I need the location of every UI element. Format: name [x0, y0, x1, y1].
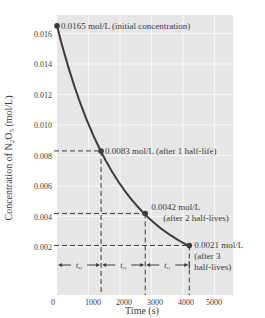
y-tick-label: 0.006: [34, 182, 52, 191]
y-axis-label: Concentration of N2O5 (mol/L): [3, 95, 16, 220]
x-tick-label: 0: [51, 298, 55, 307]
annotation-label: 0.0021 mol/L: [194, 240, 243, 250]
y-tick-label: 0.014: [34, 60, 52, 69]
data-point: [142, 211, 148, 217]
data-point: [187, 243, 193, 249]
y-tick-label: 0.002: [34, 243, 52, 252]
y-tick-label: 0.016: [34, 30, 52, 39]
y-tick-label: 0.004: [34, 213, 52, 222]
annotation-label: (after 2 half-lives): [163, 213, 228, 223]
x-axis-label: Time (s): [125, 305, 159, 317]
y-axis-ticks: 0.0020.0040.0060.0080.0100.0120.0140.016: [34, 30, 52, 253]
x-tick-label: 1000: [85, 298, 101, 307]
annotation-label: 0.0083 mol/L (after 1 half-life): [105, 146, 216, 156]
data-point: [54, 23, 60, 29]
y-tick-label: 0.008: [34, 152, 52, 161]
annotation-label: 0.0165 mol/L (initial concentration): [61, 21, 190, 31]
annotation-label: 0.0042 mol/L: [151, 202, 200, 212]
data-point: [98, 148, 104, 154]
x-tick-label: 5000: [206, 298, 222, 307]
y-tick-label: 0.012: [34, 91, 52, 100]
annotation-label: (after 3: [194, 251, 221, 261]
y-tick-label: 0.010: [34, 121, 52, 130]
x-tick-label: 4000: [178, 298, 194, 307]
half-life-chart: 0.0020.0040.0060.0080.0100.0120.0140.016…: [0, 0, 265, 318]
annotation-label: half-lives): [194, 262, 231, 272]
